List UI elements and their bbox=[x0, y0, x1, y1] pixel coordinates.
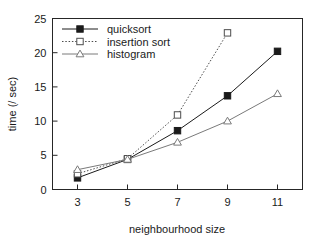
legend-marker bbox=[77, 26, 83, 32]
legend-label: insertion sort bbox=[107, 36, 170, 48]
y-tick-label: 20 bbox=[34, 47, 46, 59]
x-tick-label: 9 bbox=[224, 196, 230, 208]
y-tick-label: 15 bbox=[34, 81, 46, 93]
x-tick-label: 3 bbox=[74, 196, 80, 208]
line-chart: 0510152025 357911 neighbourhood size tim… bbox=[0, 0, 323, 241]
plot-frame bbox=[53, 19, 303, 190]
data-point bbox=[224, 93, 230, 99]
legend-label: histogram bbox=[107, 48, 155, 60]
data-point bbox=[174, 127, 180, 133]
chart-legend: quicksortinsertion sorthistogram bbox=[62, 23, 170, 60]
y-tick-label: 0 bbox=[40, 184, 46, 196]
data-point bbox=[224, 117, 232, 124]
y-tick-label: 5 bbox=[40, 149, 46, 161]
data-point bbox=[274, 90, 282, 97]
x-axis-title: neighbourhood size bbox=[129, 223, 225, 235]
legend-marker bbox=[77, 38, 83, 44]
series-layer bbox=[74, 30, 282, 181]
x-axis: 357911 bbox=[74, 185, 283, 208]
plot-border bbox=[53, 19, 303, 190]
y-axis-title: time (/ sec) bbox=[6, 77, 18, 131]
x-tick-label: 5 bbox=[124, 196, 130, 208]
x-tick-label: 11 bbox=[272, 196, 283, 208]
x-tick-label: 7 bbox=[174, 196, 180, 208]
chart-figure: 0510152025 357911 neighbourhood size tim… bbox=[0, 0, 323, 241]
y-axis: 0510152025 bbox=[34, 13, 57, 196]
y-tick-label: 10 bbox=[34, 115, 46, 127]
data-point bbox=[224, 30, 230, 36]
legend-label: quicksort bbox=[107, 23, 151, 35]
y-tick-label: 25 bbox=[34, 13, 46, 25]
legend-marker bbox=[76, 50, 84, 57]
data-point bbox=[174, 138, 182, 145]
data-point bbox=[274, 48, 280, 54]
data-point bbox=[174, 112, 180, 118]
